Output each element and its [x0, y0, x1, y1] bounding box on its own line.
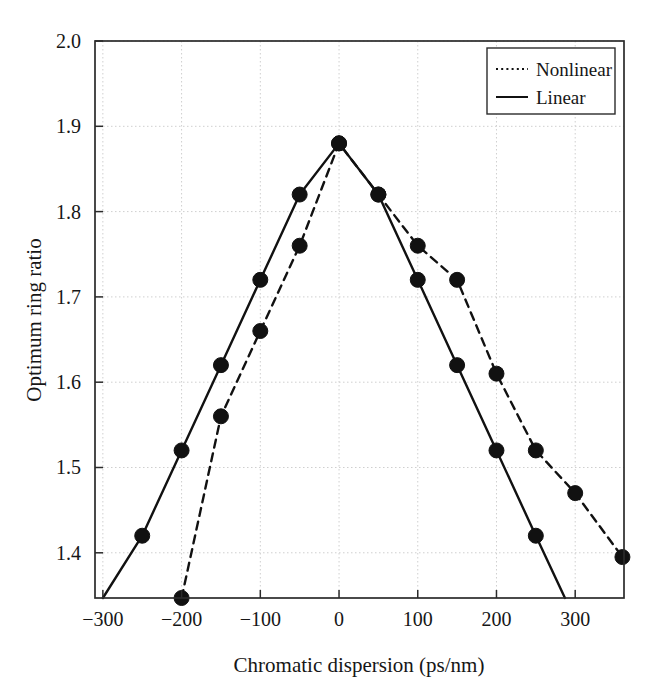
x-tick-label: 200: [481, 608, 511, 630]
y-tick-label: 2.0: [56, 30, 81, 52]
line-chart: −300−200−1000100200300 1.41.51.61.71.81.…: [0, 0, 657, 695]
plot-background: [95, 41, 624, 598]
data-point-marker-linear: [332, 136, 347, 151]
data-point-marker-linear: [174, 443, 189, 458]
data-point-marker-linear: [135, 528, 150, 543]
y-tick-label: 1.5: [56, 456, 81, 478]
data-point-marker-nonlinear: [528, 443, 543, 458]
x-tick-label: −300: [82, 608, 123, 630]
y-tick-label: 1.9: [56, 115, 81, 137]
y-tick-label: 1.7: [56, 286, 81, 308]
data-point-marker-nonlinear: [450, 272, 465, 287]
data-point-marker-linear: [410, 272, 425, 287]
data-point-marker-linear: [528, 528, 543, 543]
chart-legend: Nonlinear Linear: [487, 48, 615, 114]
data-point-marker-nonlinear: [489, 366, 504, 381]
x-tick-label: 0: [334, 608, 344, 630]
data-point-marker-nonlinear: [292, 238, 307, 253]
data-point-marker-nonlinear: [253, 324, 268, 339]
x-tick-labels: −300−200−1000100200300: [82, 608, 590, 630]
data-point-marker-linear: [213, 358, 228, 373]
data-point-marker-linear: [489, 443, 504, 458]
y-axis-title: Optimum ring ratio: [22, 238, 46, 401]
y-tick-label: 1.4: [56, 542, 81, 564]
x-tick-label: −200: [161, 608, 202, 630]
data-point-marker-nonlinear: [568, 486, 583, 501]
x-tick-label: −100: [240, 608, 281, 630]
data-point-marker-nonlinear: [213, 409, 228, 424]
x-tick-label: 100: [403, 608, 433, 630]
legend-label-nonlinear: Nonlinear: [536, 59, 613, 80]
x-axis-title: Chromatic dispersion (ps/nm): [234, 653, 485, 677]
data-point-marker-linear: [292, 187, 307, 202]
data-point-marker-nonlinear: [410, 238, 425, 253]
y-tick-label: 1.6: [56, 371, 81, 393]
chart-figure: −300−200−1000100200300 1.41.51.61.71.81.…: [0, 0, 657, 695]
data-point-marker-linear: [253, 272, 268, 287]
x-tick-label: 300: [560, 608, 590, 630]
data-point-marker-linear: [450, 358, 465, 373]
legend-label-linear: Linear: [536, 87, 586, 108]
data-point-marker-linear: [371, 187, 386, 202]
y-tick-label: 1.8: [56, 201, 81, 223]
data-point-marker-nonlinear: [615, 550, 630, 565]
y-tick-labels: 1.41.51.61.71.81.92.0: [56, 30, 81, 564]
